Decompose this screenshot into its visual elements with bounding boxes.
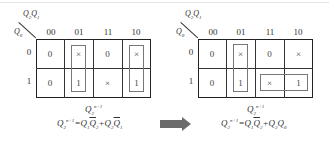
col-header: 01 — [65, 27, 93, 37]
row-header: 0 — [24, 47, 34, 57]
column-variables: Q2Q1 — [23, 9, 40, 20]
col-header: 01 — [227, 27, 255, 37]
row-variable: Q0 — [14, 27, 22, 38]
col-header: 10 — [284, 27, 312, 37]
cell: 0 — [93, 39, 122, 68]
col-header: 00 — [37, 27, 65, 37]
col-header: 10 — [122, 27, 150, 37]
cell: 0 — [198, 68, 226, 98]
col-header: 11 — [256, 27, 284, 37]
row-header: 1 — [186, 76, 196, 86]
col-header: 11 — [94, 27, 122, 37]
row-header: 0 — [186, 47, 196, 57]
col-header: 00 — [199, 27, 227, 37]
cell: × — [284, 39, 313, 68]
right-kmap: Q2Q1 Q0 00 01 11 10 0 1 0 × 0 × 0 1 × 1 … — [164, 0, 328, 143]
cell: × — [93, 68, 122, 98]
grouping-loop — [233, 44, 248, 92]
row-variable: Q0 — [176, 27, 184, 38]
cell: 0 — [255, 39, 284, 68]
column-variables: Q2Q1 — [185, 9, 202, 20]
grouping-loop — [260, 74, 308, 91]
cell: 0 — [198, 39, 226, 68]
row-header: 1 — [24, 76, 34, 86]
grouping-loop — [71, 45, 86, 92]
cell: 0 — [36, 68, 64, 98]
map-caption: Q2n+1 — [85, 104, 102, 116]
equation: Q2n+1=Q1Q2+Q2Q0 — [221, 118, 287, 130]
equation: Q2n+1=Q1Q2+Q2Q1 — [57, 118, 123, 130]
left-kmap: Q2Q1 Q0 00 01 11 10 0 1 0 × 0 × 0 1 × 1 … — [0, 0, 164, 143]
map-caption: Q2n+1 — [247, 104, 264, 116]
grouping-loop — [129, 45, 144, 92]
cell: 0 — [36, 39, 64, 68]
